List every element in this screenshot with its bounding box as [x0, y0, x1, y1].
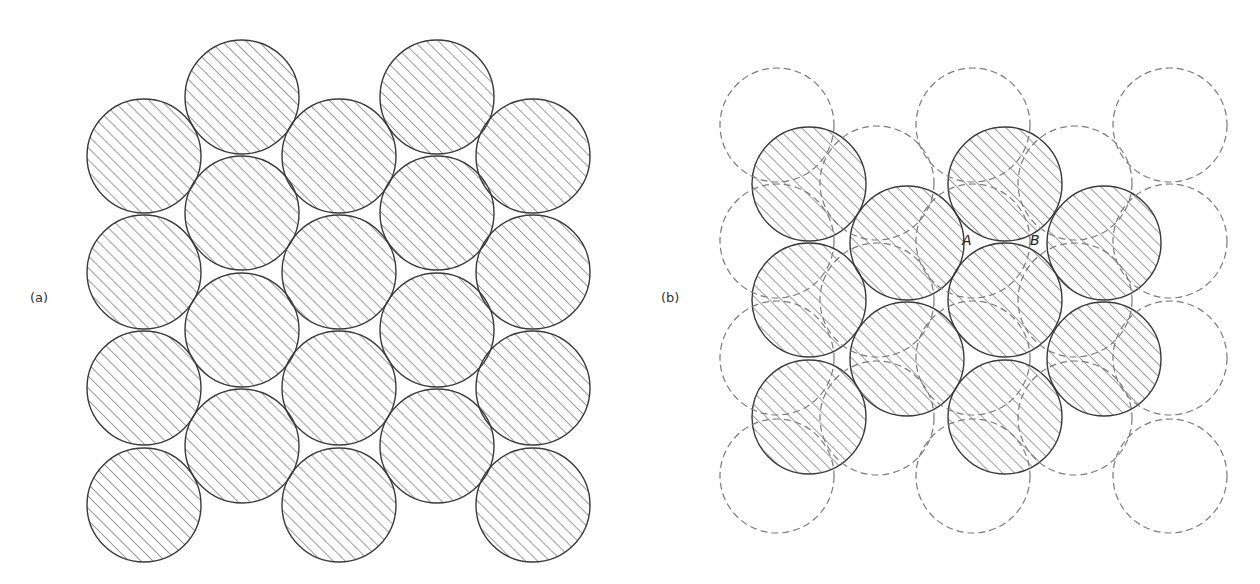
close-packing-diagram [0, 0, 1260, 584]
sphere-circle [380, 40, 494, 154]
top-layer-sphere [948, 127, 1062, 241]
bottom-layer-sphere [1113, 68, 1227, 182]
sphere-circle [185, 389, 299, 503]
sphere-circle [380, 273, 494, 387]
point-a-label: A [962, 232, 972, 248]
sphere-circle [282, 331, 396, 445]
sphere-circle [380, 156, 494, 270]
top-layer-sphere [948, 243, 1062, 357]
top-layer-sphere [752, 127, 866, 241]
top-layer-sphere [752, 243, 866, 357]
sphere-circle [476, 215, 590, 329]
sphere-circle [185, 156, 299, 270]
point-b-label: B [1030, 232, 1040, 248]
top-layer-sphere [850, 302, 964, 416]
top-layer-sphere [752, 360, 866, 474]
sphere-circle [87, 448, 201, 562]
top-layer-sphere [850, 186, 964, 300]
top-layer-sphere [1047, 302, 1161, 416]
bottom-layer-sphere [1113, 419, 1227, 533]
panel-a-single-layer [87, 40, 590, 562]
top-layer-sphere [948, 360, 1062, 474]
panel-b-top-layer [752, 127, 1161, 474]
panel-b-label: (b) [661, 290, 679, 305]
sphere-circle [87, 331, 201, 445]
sphere-circle [476, 99, 590, 213]
sphere-circle [87, 215, 201, 329]
sphere-circle [282, 215, 396, 329]
sphere-circle [282, 448, 396, 562]
sphere-circle [380, 389, 494, 503]
sphere-circle [476, 331, 590, 445]
top-layer-sphere [1047, 186, 1161, 300]
sphere-circle [87, 99, 201, 213]
sphere-circle [185, 273, 299, 387]
sphere-circle [476, 448, 590, 562]
sphere-circle [282, 99, 396, 213]
sphere-circle [185, 40, 299, 154]
panel-a-label: (a) [30, 290, 48, 305]
